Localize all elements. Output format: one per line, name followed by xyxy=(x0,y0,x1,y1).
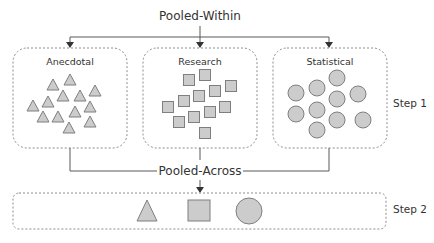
circle-icon xyxy=(329,91,345,107)
circle-icon xyxy=(350,86,366,102)
square-icon xyxy=(200,128,211,139)
square-icon xyxy=(194,91,205,102)
pooled-square-icon xyxy=(188,200,210,221)
triangle-icon xyxy=(64,74,76,85)
square-icon xyxy=(210,86,221,97)
pooling-diagram: Pooled-Within Anecdotal Research Statist… xyxy=(0,0,434,243)
triangle-icon xyxy=(63,122,75,133)
circle-icon xyxy=(329,112,345,128)
square-icon xyxy=(205,107,216,118)
circle-icon xyxy=(309,102,325,118)
square-icon xyxy=(226,81,237,92)
square-icon xyxy=(179,96,190,107)
research-squares xyxy=(163,70,237,139)
square-icon xyxy=(189,112,200,123)
triangle-icon xyxy=(84,116,96,127)
circle-icon xyxy=(309,122,325,138)
pooled-triangle-icon xyxy=(137,200,157,221)
triangle-icon xyxy=(89,85,101,96)
step-1-label: Step 1 xyxy=(393,97,427,109)
triangle-icon xyxy=(52,111,64,122)
triangle-icon xyxy=(74,90,86,101)
anecdotal-triangles xyxy=(27,74,101,133)
pooled-within-connectors xyxy=(70,26,329,44)
circle-icon xyxy=(329,70,345,86)
triangle-icon xyxy=(37,111,49,122)
triangle-icon xyxy=(57,90,69,101)
step-2-label: Step 2 xyxy=(393,203,427,215)
square-icon xyxy=(174,117,185,128)
pooled-across-label: Pooled-Across xyxy=(158,164,241,178)
circle-icon xyxy=(288,106,304,122)
square-icon xyxy=(184,75,195,86)
square-icon xyxy=(163,102,174,113)
arrow-to-statistical-icon xyxy=(325,42,333,48)
triangle-icon xyxy=(69,106,81,117)
arrow-to-step2-icon xyxy=(196,187,204,193)
statistical-circles xyxy=(288,70,371,138)
arrow-to-anecdotal-icon xyxy=(66,42,74,48)
research-title: Research xyxy=(178,56,222,67)
triangle-icon xyxy=(47,79,59,90)
circle-icon xyxy=(309,80,325,96)
circle-icon xyxy=(355,112,371,128)
circle-icon xyxy=(288,85,304,101)
square-icon xyxy=(200,70,211,81)
arrow-to-research-icon xyxy=(196,42,204,48)
triangle-icon xyxy=(42,96,54,107)
pooled-within-label: Pooled-Within xyxy=(159,9,241,23)
pooled-circle-icon xyxy=(236,198,262,224)
statistical-title: Statistical xyxy=(307,56,354,67)
anecdotal-title: Anecdotal xyxy=(46,56,94,67)
square-icon xyxy=(220,102,231,113)
triangle-icon xyxy=(27,100,39,111)
triangle-icon xyxy=(84,101,96,112)
